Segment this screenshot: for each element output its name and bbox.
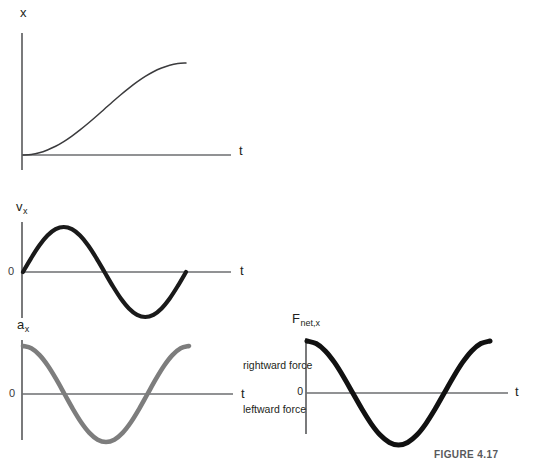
panel-net-force [306, 338, 508, 445]
panel-velocity [22, 222, 231, 318]
acceleration-zero-label: 0 [9, 387, 15, 399]
velocity-zero-label: 0 [8, 265, 14, 277]
rightward-force-label: rightward force [243, 359, 303, 371]
velocity-time-label: t [240, 264, 244, 279]
position-time-label: t [239, 144, 243, 159]
position-axis-label: x [20, 6, 27, 21]
velocity-axis-label: vx [16, 200, 27, 215]
panel-position [22, 33, 231, 170]
force-time-label: t [515, 385, 519, 400]
acceleration-axis-label: ax [17, 318, 29, 333]
force-zero-label: 0 [243, 385, 303, 397]
force-axis-label: Fnet,x [292, 312, 319, 327]
acceleration-axis-subscript: x [25, 324, 30, 334]
leftward-force-label: leftward force [243, 403, 303, 415]
force-axis-subscript: net,x [300, 318, 320, 328]
position-curve [23, 63, 186, 155]
figure-caption: FIGURE 4.17 [434, 449, 498, 459]
panel-acceleration [22, 340, 233, 442]
velocity-axis-subscript: x [23, 206, 28, 216]
kinematics-figure: x t vx 0 t ax 0 t Fnet,x rightward force… [0, 0, 537, 459]
